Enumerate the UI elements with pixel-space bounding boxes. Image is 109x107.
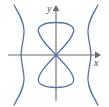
y-axis-arrowhead xyxy=(53,5,60,11)
y-axis-label: y xyxy=(47,4,51,14)
math-figure-canvas: y x xyxy=(0,0,109,107)
x-axis-label: x xyxy=(94,58,98,68)
plot-svg xyxy=(0,0,109,107)
